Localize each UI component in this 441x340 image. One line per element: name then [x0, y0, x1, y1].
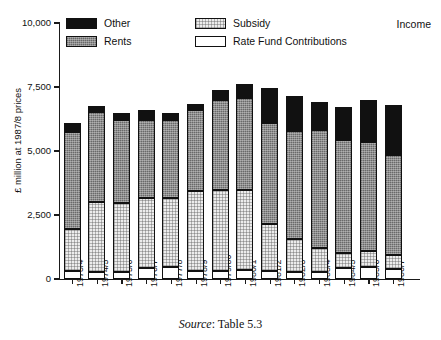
bar-1982-3 — [286, 23, 303, 279]
bar-1980-1 — [236, 23, 253, 279]
bar-segment-rate-fund-contributions — [138, 268, 155, 279]
plot-area — [60, 23, 420, 279]
bar-segment-subsidy — [261, 224, 278, 271]
bar-segment-other — [311, 102, 328, 130]
bar-1976-7 — [138, 23, 155, 279]
bar-segment-other — [64, 123, 81, 132]
figure-income-stacked-bar-chart: Other Rents Subsidy Rate Fund Contributi… — [0, 0, 441, 340]
x-axis-tick — [344, 279, 345, 284]
bar-segment-rents — [335, 140, 352, 253]
bar-1975-6 — [113, 23, 130, 279]
bar-segment-rate-fund-contributions — [162, 267, 179, 279]
x-axis-tick — [171, 279, 172, 284]
x-axis-tick — [393, 279, 394, 284]
bar-segment-rents — [212, 100, 229, 190]
bar-1979-80 — [212, 23, 229, 279]
bar-1983-4 — [311, 23, 328, 279]
bar-segment-rate-fund-contributions — [236, 270, 253, 279]
bar-segment-other — [360, 100, 377, 142]
bar-segment-rents — [88, 112, 105, 202]
bar-segment-subsidy — [385, 255, 402, 269]
bar-segment-rate-fund-contributions — [212, 271, 229, 279]
x-axis-tick — [121, 279, 122, 284]
y-axis-tick-label: 7,500 — [0, 82, 51, 92]
bar-segment-rate-fund-contributions — [286, 272, 303, 279]
bar-segment-rents — [64, 132, 81, 229]
bar-segment-subsidy — [162, 198, 179, 267]
source-note: Source: Table 5.3 — [0, 317, 441, 332]
x-axis-tick — [294, 279, 295, 284]
bar-segment-rents — [311, 130, 328, 248]
bar-segment-other — [385, 105, 402, 155]
bar-1981-2 — [261, 23, 278, 279]
bar-segment-other — [286, 96, 303, 131]
bar-segment-other — [212, 90, 229, 100]
y-axis-tick-label: 2,500 — [0, 210, 51, 220]
bar-segment-subsidy — [360, 251, 377, 267]
bar-segment-rents — [385, 155, 402, 255]
bar-segment-subsidy — [212, 190, 229, 271]
bar-1977-8 — [162, 23, 179, 279]
bar-segment-subsidy — [335, 253, 352, 268]
x-axis-tick — [368, 279, 369, 284]
bar-segment-subsidy — [138, 198, 155, 268]
x-axis-tick — [146, 279, 147, 284]
bar-segment-other — [162, 113, 179, 119]
bar-segment-rents — [360, 142, 377, 251]
bar-segment-subsidy — [286, 239, 303, 271]
bar-segment-rate-fund-contributions — [261, 271, 278, 279]
bar-segment-rents — [187, 110, 204, 191]
x-axis-line — [59, 279, 420, 280]
bar-1974-5 — [88, 23, 105, 279]
bar-segment-rents — [138, 120, 155, 198]
bar-segment-rents — [286, 131, 303, 240]
bar-segment-rents — [261, 123, 278, 224]
bar-segment-rate-fund-contributions — [113, 272, 130, 279]
bar-segment-subsidy — [113, 203, 130, 272]
bar-segment-rents — [113, 120, 130, 203]
bar-segment-rate-fund-contributions — [311, 272, 328, 279]
x-axis-tick — [72, 279, 73, 284]
y-axis-tick-label: 0 — [0, 274, 51, 284]
bar-1984-5 — [335, 23, 352, 279]
bar-segment-rents — [236, 98, 253, 190]
bar-segment-rate-fund-contributions — [385, 269, 402, 279]
bar-segment-rate-fund-contributions — [335, 268, 352, 279]
bar-segment-other — [236, 84, 253, 97]
bar-segment-rate-fund-contributions — [187, 271, 204, 279]
bar-segment-subsidy — [64, 229, 81, 271]
bar-segment-rate-fund-contributions — [360, 267, 377, 279]
bar-segment-subsidy — [236, 190, 253, 270]
bar-segment-subsidy — [88, 202, 105, 272]
x-axis-tick — [245, 279, 246, 284]
bar-segment-subsidy — [187, 191, 204, 272]
x-axis-tick — [196, 279, 197, 284]
bar-segment-other — [88, 106, 105, 112]
bar-segment-subsidy — [311, 248, 328, 272]
bar-segment-other — [187, 104, 204, 110]
bar-segment-other — [335, 107, 352, 140]
bar-1978-9 — [187, 23, 204, 279]
bar-segment-rate-fund-contributions — [88, 272, 105, 279]
bar-1985-6 — [360, 23, 377, 279]
bar-segment-other — [261, 88, 278, 123]
bar-1986-7 — [385, 23, 402, 279]
x-axis-tick — [319, 279, 320, 284]
bar-segment-other — [138, 110, 155, 120]
source-value: : Table 5.3 — [212, 317, 263, 331]
x-axis-tick — [97, 279, 98, 284]
y-axis-tick-label: 10,000 — [0, 18, 51, 28]
y-axis-tick-label: 5,000 — [0, 146, 51, 156]
x-axis-tick — [220, 279, 221, 284]
bar-segment-rents — [162, 120, 179, 198]
source-label: Source — [179, 317, 212, 331]
bar-segment-rate-fund-contributions — [64, 271, 81, 279]
y-axis-title: £ million at 1987/8 prices — [12, 23, 23, 193]
x-axis-tick — [270, 279, 271, 284]
bar-1973-4 — [64, 23, 81, 279]
bar-segment-other — [113, 113, 130, 119]
